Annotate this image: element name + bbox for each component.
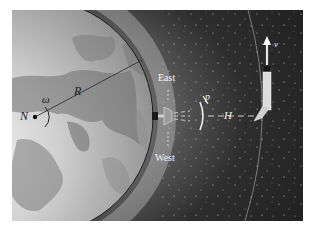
west-label: West: [155, 153, 175, 163]
altitude-label: H: [224, 110, 232, 121]
figure-canvas: [12, 10, 303, 221]
north-pole-label: N: [20, 110, 28, 122]
velocity-label: v: [274, 40, 278, 49]
angular-velocity-label: ω: [42, 94, 50, 105]
north-pole-dot: [33, 115, 37, 119]
east-label: East: [158, 73, 175, 83]
earth-shuttle-figure: N ω R East West p H v: [12, 10, 303, 221]
dish-parameter-label: p: [205, 92, 210, 102]
radius-label: R: [74, 85, 81, 97]
